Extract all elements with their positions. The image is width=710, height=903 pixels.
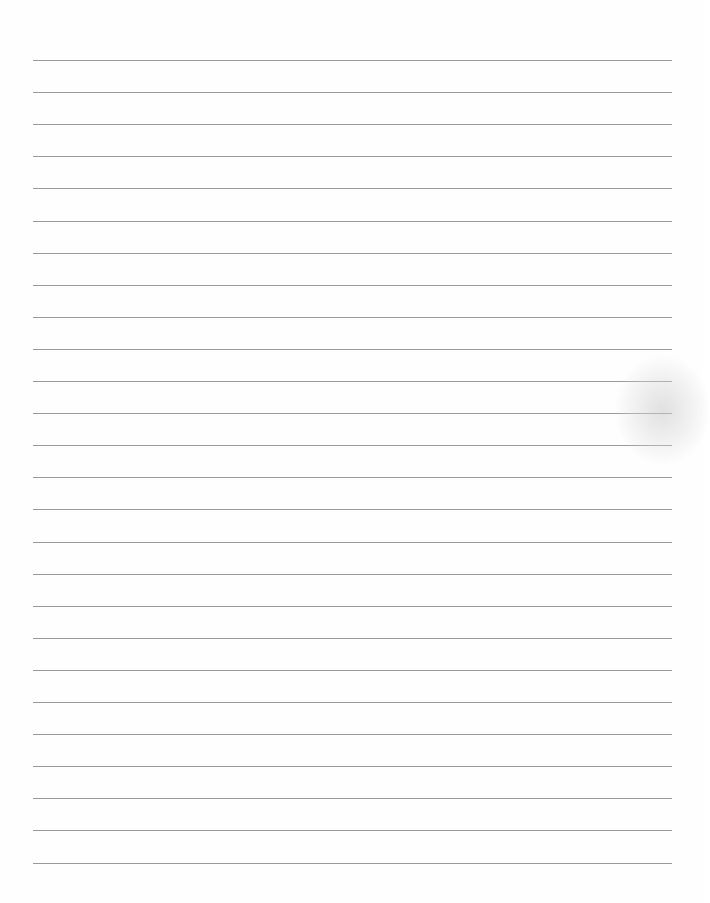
ruled-line <box>33 349 672 350</box>
ruled-line <box>33 830 672 831</box>
ruled-line <box>33 124 672 125</box>
ruled-line <box>33 638 672 639</box>
ruled-line <box>33 317 672 318</box>
ruled-line <box>33 477 672 478</box>
ruled-line <box>33 766 672 767</box>
ruled-line <box>33 574 672 575</box>
ruled-line <box>33 798 672 799</box>
ruled-line <box>33 188 672 189</box>
ruled-line <box>33 60 672 61</box>
ruled-line <box>33 381 672 382</box>
ruled-line <box>33 156 672 157</box>
ruled-line <box>33 413 672 414</box>
ruled-line <box>33 221 672 222</box>
ruled-line <box>33 542 672 543</box>
ruled-line <box>33 702 672 703</box>
ruled-line <box>33 509 672 510</box>
ruled-line <box>33 863 672 864</box>
ruled-line <box>33 670 672 671</box>
ruled-line <box>33 734 672 735</box>
ruled-line <box>33 606 672 607</box>
ruled-line <box>33 253 672 254</box>
ruled-line <box>33 92 672 93</box>
ruled-line <box>33 445 672 446</box>
ruled-line <box>33 285 672 286</box>
smudge-mark <box>615 355 710 465</box>
